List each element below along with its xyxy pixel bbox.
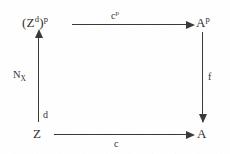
arrow-top-label-exponent: p (115, 9, 119, 17)
arrow-left-secondary-label: d (43, 110, 48, 120)
arrow-left-label: NX (13, 70, 26, 81)
arrow-left-label-base: N (13, 69, 21, 80)
arrow-bottom-shaft (54, 134, 192, 135)
node-top-left: (Zd)p (22, 16, 48, 29)
node-top-left-outer-exponent: p (44, 14, 48, 24)
node-bottom-left: Z (33, 127, 41, 140)
node-bottom-right: A (197, 127, 207, 140)
arrow-top-label: cp (111, 11, 119, 21)
arrow-left-shaft (38, 32, 39, 122)
arrow-top-shaft (72, 24, 192, 25)
node-top-right-base: A (196, 15, 206, 30)
node-top-right: Ap (196, 16, 210, 29)
arrowhead-down-right (199, 114, 207, 123)
commutative-diagram: (Zd)p Ap Z A cp c NX d f (0, 0, 230, 154)
arrow-right-shaft (202, 32, 203, 122)
arrow-right-label: f (208, 72, 211, 82)
node-top-right-exponent: p (206, 14, 210, 24)
arrowhead-up-left (35, 29, 43, 38)
arrow-left-label-subscript: X (21, 74, 26, 83)
node-top-left-base: (Z (22, 15, 35, 30)
arrowhead-right-top (186, 21, 195, 29)
arrow-bottom-label: c (114, 139, 118, 149)
arrowhead-right-bottom (186, 131, 195, 139)
